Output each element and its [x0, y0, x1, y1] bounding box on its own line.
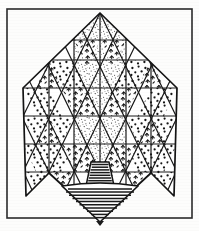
- figure-canvas: [0, 0, 199, 231]
- figure-illustration: [0, 0, 199, 231]
- hatched-inverted-cone: [62, 183, 138, 226]
